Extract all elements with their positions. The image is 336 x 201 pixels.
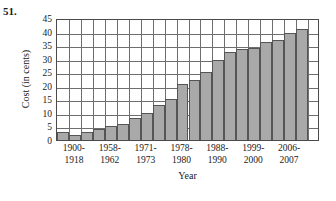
x-tick-label-line1: 1958- <box>99 143 121 155</box>
bar <box>57 132 69 140</box>
x-tick-label: 1999-2000 <box>242 143 264 166</box>
x-axis-tick-labels: 1900-19181958-19621971-19731978-19801988… <box>40 143 330 169</box>
x-tick-label-line1: 1978- <box>170 143 192 155</box>
x-tick-label-line2: 1962 <box>99 155 121 167</box>
x-tick-label: 1988-1990 <box>206 143 228 166</box>
bar <box>141 113 153 140</box>
gridline-vertical <box>308 20 309 140</box>
x-tick-label-line2: 1973 <box>135 155 157 167</box>
bar <box>69 135 81 140</box>
y-axis-title-container: Cost (in cents) <box>18 18 32 140</box>
x-tick-label-line2: 1990 <box>206 155 228 167</box>
bar <box>260 42 272 140</box>
bar <box>224 52 236 140</box>
bar <box>153 105 165 140</box>
problem-number: 51. <box>3 5 17 17</box>
x-tick-label-line1: 1971- <box>135 143 157 155</box>
bar <box>105 126 117 140</box>
x-tick-label: 1958-1962 <box>99 143 121 166</box>
bar <box>165 99 177 140</box>
bar <box>129 118 141 140</box>
x-tick-label: 1978-1980 <box>170 143 192 166</box>
gridline-vertical <box>117 20 118 140</box>
gridline-vertical <box>105 20 106 140</box>
y-tick-label: 40 <box>43 28 53 37</box>
gridline-vertical <box>81 20 82 140</box>
plot-area <box>56 19 319 141</box>
y-tick-label: 10 <box>43 109 53 118</box>
x-tick-label: 2006-2007 <box>278 143 300 166</box>
figure: 51. Cost (in cents) 051015202530354045 1… <box>0 0 336 201</box>
bar <box>81 132 93 140</box>
x-tick-label-line2: 2007 <box>278 155 300 167</box>
y-tick-label: 45 <box>43 15 53 24</box>
x-tick-label-line2: 2000 <box>242 155 264 167</box>
bar <box>236 49 248 140</box>
bar <box>212 60 224 140</box>
bar <box>248 48 260 140</box>
gridline-vertical <box>69 20 70 140</box>
x-tick-label-line1: 2006- <box>278 143 300 155</box>
x-tick-label-line1: 1988- <box>206 143 228 155</box>
x-tick-label: 1900-1918 <box>63 143 85 166</box>
gridline-horizontal <box>57 34 318 35</box>
x-axis-title: Year <box>56 170 319 181</box>
bar <box>177 84 189 140</box>
x-tick-label-line1: 1999- <box>242 143 264 155</box>
gridline-vertical <box>93 20 94 140</box>
y-axis-tick-labels: 051015202530354045 <box>32 15 54 141</box>
bar <box>272 40 284 140</box>
bar <box>200 72 212 140</box>
x-tick-label-line2: 1980 <box>170 155 192 167</box>
x-tick-label-line2: 1918 <box>63 155 85 167</box>
y-tick-label: 25 <box>43 69 53 78</box>
y-tick-label: 35 <box>43 42 53 51</box>
y-tick-label: 15 <box>43 96 53 105</box>
bar <box>93 129 105 140</box>
bar <box>117 124 129 140</box>
y-tick-label: 30 <box>43 55 53 64</box>
x-tick-label-line1: 1900- <box>63 143 85 155</box>
y-axis-title: Cost (in cents) <box>20 50 31 108</box>
y-tick-label: 5 <box>47 123 52 132</box>
bar <box>296 29 308 140</box>
y-tick-label: 20 <box>43 82 53 91</box>
bar <box>189 80 201 140</box>
x-tick-label: 1971-1973 <box>135 143 157 166</box>
bar <box>284 33 296 140</box>
